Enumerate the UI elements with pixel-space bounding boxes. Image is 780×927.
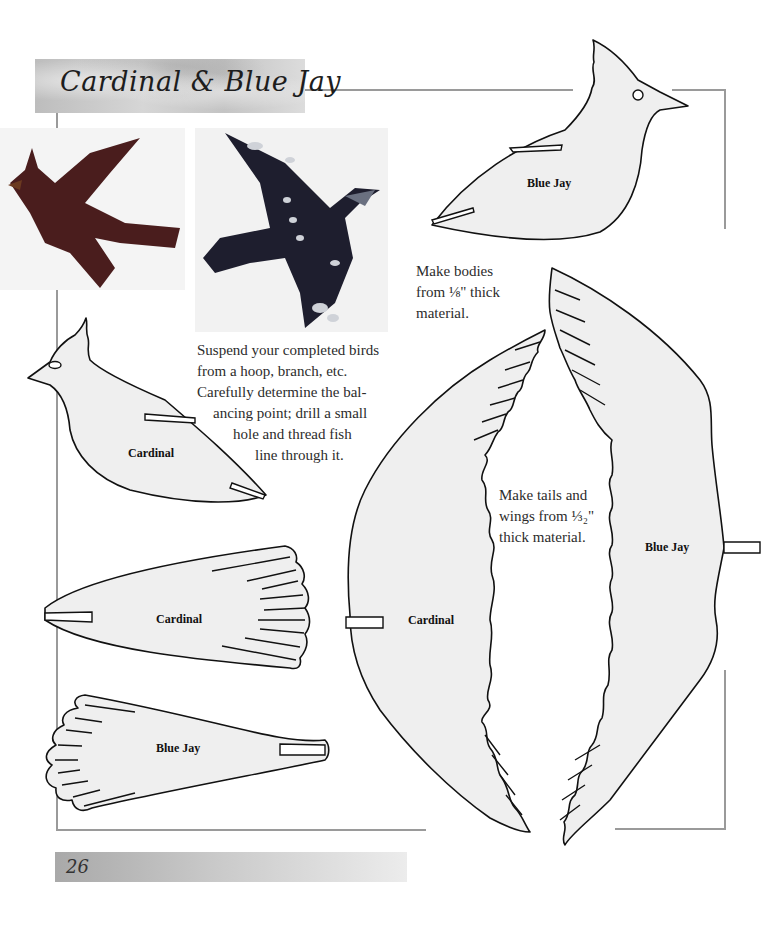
cardinal-tail-pattern bbox=[45, 546, 310, 669]
suspend-line-3: Carefully determine the bal- bbox=[197, 382, 379, 403]
blue-jay-body-label: Blue Jay bbox=[527, 176, 571, 191]
suspend-line-4: ancing point; drill a small bbox=[197, 403, 379, 424]
cardinal-body-label: Cardinal bbox=[128, 446, 174, 461]
suspend-instructions: Suspend your completed birds from a hoop… bbox=[197, 340, 379, 466]
bodies-instructions: Make bodies from ⅛" thick material. bbox=[416, 261, 500, 324]
bodies-line-2: from ⅛" thick bbox=[416, 282, 500, 303]
cardinal-tail-label: Cardinal bbox=[156, 612, 202, 627]
page-number: 26 bbox=[66, 856, 89, 877]
pattern-sheet bbox=[0, 0, 780, 927]
tails-wings-instructions: Make tails and wings from ⅓₂" thick mate… bbox=[499, 485, 594, 548]
tails-wings-line-1: Make tails and bbox=[499, 485, 594, 506]
bodies-line-1: Make bodies bbox=[416, 261, 500, 282]
footer-bar bbox=[55, 852, 407, 882]
blue-jay-wing-label: Blue Jay bbox=[645, 540, 689, 555]
blue-jay-tail-label: Blue Jay bbox=[156, 741, 200, 756]
tails-wings-line-2: wings from ⅓₂" bbox=[499, 506, 594, 527]
cardinal-wing-label: Cardinal bbox=[408, 613, 454, 628]
suspend-line-6: line through it. bbox=[197, 445, 379, 466]
suspend-line-1: Suspend your completed birds bbox=[197, 340, 379, 361]
suspend-line-2: from a hoop, branch, etc. bbox=[197, 361, 379, 382]
blue-jay-body-pattern bbox=[432, 40, 688, 239]
bodies-line-3: material. bbox=[416, 303, 500, 324]
blue-jay-wing-pattern bbox=[549, 268, 760, 845]
tails-wings-line-3: thick material. bbox=[499, 527, 594, 548]
suspend-line-5: hole and thread fish bbox=[197, 424, 379, 445]
